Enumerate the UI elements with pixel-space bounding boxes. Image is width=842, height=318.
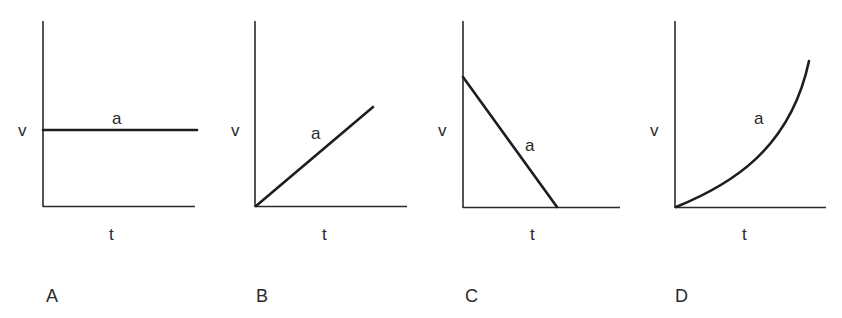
curve-label: a bbox=[112, 109, 122, 128]
panel-label: B bbox=[256, 286, 268, 306]
y-axis-label: v bbox=[231, 121, 240, 140]
graph-a: a v t A bbox=[18, 21, 197, 306]
graph-b: a v t B bbox=[231, 21, 407, 306]
graph-d: a v t D bbox=[650, 21, 826, 306]
curve-a bbox=[463, 77, 557, 207]
y-axis-label: v bbox=[18, 121, 27, 140]
panel-label: D bbox=[675, 286, 688, 306]
panel-label: A bbox=[46, 286, 58, 306]
x-axis-label: t bbox=[109, 225, 114, 244]
curve-a bbox=[256, 107, 373, 206]
curve-label: a bbox=[311, 124, 321, 143]
y-axis-label: v bbox=[438, 121, 447, 140]
curve-label: a bbox=[754, 109, 764, 128]
velocity-time-graphs: a v t A a v t B a v t C a v t D bbox=[0, 0, 842, 318]
panel-label: C bbox=[465, 286, 478, 306]
y-axis-label: v bbox=[650, 121, 659, 140]
curve-label: a bbox=[525, 136, 535, 155]
graph-c: a v t C bbox=[438, 21, 620, 306]
x-axis-label: t bbox=[322, 225, 327, 244]
x-axis-label: t bbox=[742, 225, 747, 244]
x-axis-label: t bbox=[530, 225, 535, 244]
curve-a bbox=[676, 61, 809, 207]
